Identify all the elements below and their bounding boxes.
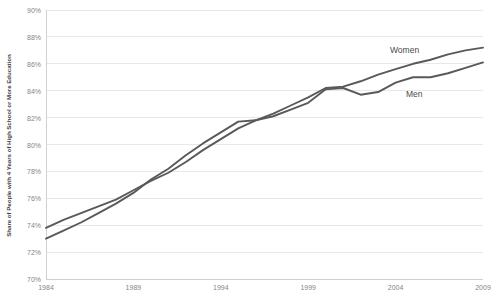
x-tick-label: 1994 (213, 284, 229, 291)
x-tick-label: 1999 (300, 284, 316, 291)
series-label-women: Women (390, 45, 419, 55)
series-label-men: Men (406, 89, 423, 99)
x-tick-label: 2004 (388, 284, 404, 291)
x-tick-label: 1984 (38, 284, 54, 291)
x-tick-label: 2009 (475, 284, 491, 291)
x-tick-label: 1989 (126, 284, 142, 291)
